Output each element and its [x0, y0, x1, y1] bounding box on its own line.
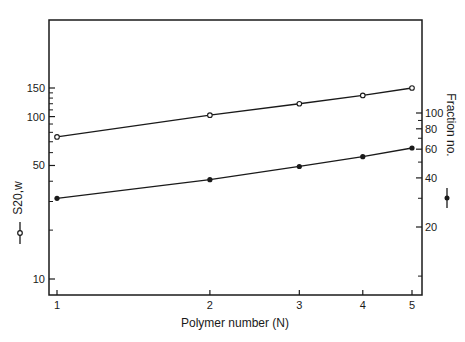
data-series: [54, 86, 414, 201]
filled-data-point: [297, 164, 302, 169]
x-tick-label: 3: [296, 299, 302, 311]
right-axis-title: Fraction no.: [444, 93, 458, 156]
left-tick-label: 10: [33, 273, 45, 285]
plot-frame: [49, 20, 422, 295]
open-data-point: [208, 113, 213, 118]
filled-data-point: [54, 196, 59, 201]
filled-circle-legend-icon: [445, 188, 450, 208]
x-tick-label: 2: [207, 299, 213, 311]
x-tick-label: 4: [360, 299, 366, 311]
series-line: [57, 88, 412, 137]
x-axis: 12345: [54, 290, 415, 311]
series-line: [57, 148, 412, 198]
right-y-axis: 20406080100: [416, 107, 443, 276]
filled-data-point: [207, 177, 212, 182]
x-tick-label: 5: [409, 299, 415, 311]
left-y-axis: 1050100150: [27, 82, 55, 285]
filled-data-point: [360, 154, 365, 159]
chart: 12345 1050100150 20406080100 Polymer num…: [0, 0, 465, 342]
right-tick-label: 20: [425, 221, 437, 233]
left-tick-label: 100: [27, 111, 45, 123]
left-tick-label: 150: [27, 82, 45, 94]
open-data-point: [297, 101, 302, 106]
right-tick-label: 100: [425, 107, 443, 119]
left-axis-title: S20,w: [11, 181, 25, 215]
open-data-point: [360, 93, 365, 98]
open-data-point: [410, 86, 415, 91]
left-tick-label: 50: [33, 159, 45, 171]
right-tick-label: 40: [425, 172, 437, 184]
x-tick-label: 1: [54, 299, 60, 311]
open-circle-legend-icon: [18, 222, 23, 244]
open-data-point: [55, 135, 60, 140]
left-axis-label: S20,w: [11, 181, 25, 215]
right-tick-label: 80: [425, 123, 437, 135]
right-axis-label: Fraction no.: [444, 93, 458, 156]
filled-data-point: [409, 145, 414, 150]
right-tick-label: 60: [425, 143, 437, 155]
x-axis-label: Polymer number (N): [181, 316, 289, 330]
